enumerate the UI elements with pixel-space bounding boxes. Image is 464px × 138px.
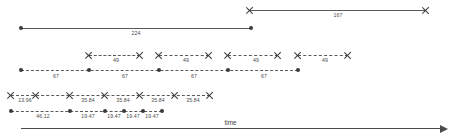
row-67-marker: [226, 68, 231, 73]
row-49-marker: [224, 51, 233, 60]
row-49-marker: [136, 51, 145, 60]
row-1947-marker: [160, 109, 165, 114]
row-67-label: 67: [122, 74, 128, 79]
time-axis-label: time: [224, 119, 236, 126]
row-3584-label: 35.84: [116, 98, 129, 103]
row-3584-marker: [7, 91, 16, 100]
row-49-marker: [344, 51, 353, 60]
row-67-label: 67: [53, 74, 59, 79]
row-3584-label: 13.96: [18, 98, 31, 103]
row-67-marker: [19, 68, 24, 73]
row-3584-label: 35.84: [151, 98, 164, 103]
row-49-segment-2: [228, 55, 278, 56]
row-3584-label: 35.84: [186, 98, 199, 103]
row-67-marker: [157, 68, 162, 73]
row-67-label: 67: [191, 74, 197, 79]
row-224-marker: [19, 26, 24, 31]
row-167-marker: [246, 6, 255, 15]
row-167-line: [250, 10, 426, 11]
row-3584-marker: [32, 91, 41, 100]
row-1947-label: 19.47: [126, 114, 139, 119]
time-axis-line: [21, 128, 440, 129]
row-3584-marker: [206, 91, 215, 100]
row-67-marker: [87, 68, 92, 73]
row-3584-marker: [101, 91, 110, 100]
row-3584-marker: [136, 91, 145, 100]
row-1947-label: 19.47: [107, 114, 120, 119]
row-1947-line: [11, 111, 162, 112]
row-224-line: [21, 28, 251, 29]
row-3584-marker: [171, 91, 180, 100]
row-49-marker: [85, 51, 94, 60]
row-49-marker: [294, 51, 303, 60]
row-1947-label: 19.47: [81, 114, 94, 119]
row-49-label: 49: [183, 58, 189, 63]
row-1947-marker: [9, 109, 14, 114]
row-3584-line: [11, 95, 210, 96]
row-49-label: 49: [253, 58, 259, 63]
row-49-marker: [274, 51, 283, 60]
row-49-label: 49: [113, 58, 119, 63]
row-1947-marker: [68, 109, 73, 114]
row-49-label: 49: [322, 58, 328, 63]
row-1947-label: 46.12: [36, 114, 49, 119]
row-167-label: 167: [334, 13, 343, 18]
time-axis-arrowhead: [440, 125, 448, 133]
row-49-segment-3: [298, 55, 348, 56]
row-3584-label: 35.84: [81, 98, 94, 103]
row-167-marker: [422, 6, 431, 15]
row-224-label: 224: [132, 31, 141, 36]
row-67-label: 67: [261, 74, 267, 79]
row-49-marker: [155, 51, 164, 60]
timeline-diagram: 167224494949496767676713.9635.8435.8435.…: [0, 0, 464, 138]
row-1947-label: 19.47: [145, 114, 158, 119]
row-3584-marker: [66, 91, 75, 100]
row-49-marker: [205, 51, 214, 60]
row-67-marker: [296, 68, 301, 73]
row-49-segment-1: [159, 55, 209, 56]
row-49-segment-0: [89, 55, 140, 56]
row-224-marker: [249, 26, 254, 31]
